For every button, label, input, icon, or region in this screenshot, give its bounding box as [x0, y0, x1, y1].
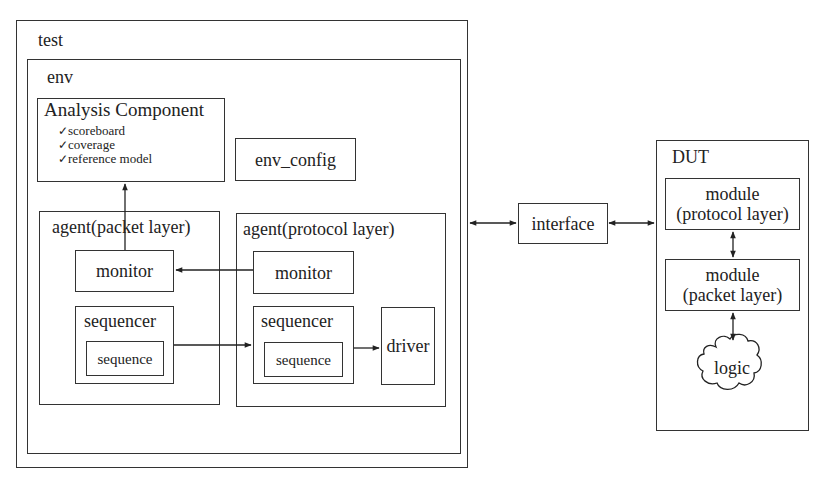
logic-label: logic — [714, 358, 750, 378]
connections-layer — [0, 0, 823, 477]
